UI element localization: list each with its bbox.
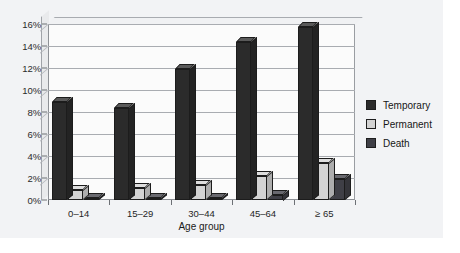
y-tick-label: 0%	[27, 195, 41, 206]
bar-front-face	[207, 198, 222, 200]
bar-side-face	[329, 158, 335, 200]
legend-item: Permanent	[366, 116, 432, 132]
x-tick-label: 45–64	[250, 208, 276, 219]
legend-swatch	[366, 100, 376, 110]
x-tick-mark	[171, 200, 172, 205]
chart-legend: TemporaryPermanentDeath	[366, 97, 432, 154]
y-tick-mark	[42, 156, 47, 157]
x-tick-label: 15–29	[127, 208, 153, 219]
x-axis-title: Age group	[48, 221, 355, 232]
x-tick-mark	[232, 200, 233, 205]
y-tick-mark	[42, 112, 47, 113]
bar	[84, 198, 99, 200]
bar-side-face	[129, 103, 135, 200]
bar-front-face	[114, 108, 129, 200]
y-tick-mark	[42, 134, 47, 135]
bar-side-face	[313, 22, 319, 200]
y-tick-label: 12%	[22, 63, 41, 74]
bar-front-face	[175, 69, 190, 200]
y-tick-mark	[42, 68, 47, 69]
bar	[298, 27, 313, 200]
bar	[236, 42, 251, 200]
y-tick-mark	[42, 90, 47, 91]
y-tick-mark	[42, 46, 47, 47]
y-tick-mark	[42, 178, 47, 179]
y-tick-label: 16%	[22, 19, 41, 30]
plot-area: 0%2%4%6%8%10%12%14%16% 0–1415–2930–4445–…	[48, 24, 355, 200]
legend-label: Death	[383, 138, 410, 149]
legend-item: Death	[366, 135, 432, 151]
bar-side-face	[251, 37, 257, 200]
bar	[175, 69, 190, 200]
y-tick-label: 10%	[22, 85, 41, 96]
y-tick-label: 6%	[27, 129, 41, 140]
x-tick-label: ≥ 65	[315, 208, 333, 219]
bar-front-face	[52, 102, 67, 200]
bar-front-face	[84, 198, 99, 200]
legend-swatch	[366, 119, 376, 129]
y-tick-mark	[42, 200, 47, 201]
legend-label: Temporary	[383, 100, 430, 111]
legend-item: Temporary	[366, 97, 432, 113]
x-tick-label: 30–44	[188, 208, 214, 219]
x-tick-mark	[355, 200, 356, 205]
y-tick-label: 8%	[27, 107, 41, 118]
bar	[207, 198, 222, 200]
bar	[114, 108, 129, 200]
bar	[146, 198, 161, 200]
y-tick-label: 4%	[27, 151, 41, 162]
y-tick-mark	[42, 24, 47, 25]
legend-label: Permanent	[383, 119, 432, 130]
y-tick-label: 14%	[22, 41, 41, 52]
x-tick-mark	[48, 200, 49, 205]
x-tick-mark	[109, 200, 110, 205]
bar-side-face	[67, 97, 73, 200]
bar-side-face	[190, 64, 196, 200]
legend-swatch	[366, 138, 376, 148]
chart-figure: 0%2%4%6%8%10%12%14%16% 0–1415–2930–4445–…	[0, 0, 443, 238]
bar	[52, 102, 67, 200]
y-tick-label: 2%	[27, 173, 41, 184]
bar-front-face	[298, 27, 313, 200]
x-tick-label: 0–14	[68, 208, 89, 219]
bar-front-face	[146, 198, 161, 200]
x-tick-mark	[294, 200, 295, 205]
bar-front-face	[236, 42, 251, 200]
